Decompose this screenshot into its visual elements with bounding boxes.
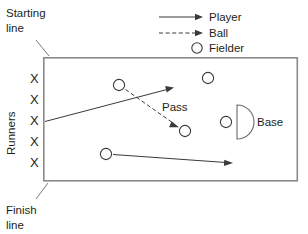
base-semicircle-icon [237,105,254,139]
fielder-lower-left [100,148,111,159]
base-marker: Base [220,105,283,139]
fielder-upper-left [113,79,124,90]
fielder-at-base [220,116,231,127]
starting-line-label-line1: Starting [6,7,46,19]
dashed-arrow-icon [159,30,203,37]
runners-label: Runners [5,111,17,155]
lower-player-arrow [113,155,233,167]
runner-mark-1: X [30,71,39,86]
legend-item-player: Player [159,11,242,23]
fielder-upper-right [202,72,213,83]
legend-label-player: Player [209,11,242,23]
legend-label-fielder: Fielder [209,42,244,54]
circle-icon [192,43,202,53]
runner-mark-5: X [30,155,39,170]
base-label: Base [257,116,283,128]
starting-line-leader-line [36,40,49,56]
fielder-ball-receiver [179,125,190,136]
legend-item-fielder: Fielder [192,42,245,54]
runner-path-arrow [45,86,174,121]
runner-mark-4: X [30,134,39,149]
field-diagram: Player Ball Fielder Starting line [0,0,308,234]
finish-line-leader-line [36,183,48,199]
finish-line-label-line1: Finish [6,204,37,216]
finish-line-annotation: Finish line [6,183,48,231]
runner-mark-3: X [30,113,39,128]
starting-line-annotation: Starting line [6,7,49,56]
pass-label: Pass [162,101,188,113]
finish-line-label-line2: line [6,219,24,231]
solid-arrow-icon [159,14,203,21]
legend-item-ball: Ball [159,27,228,39]
runner-marks: X X X X X [30,71,39,170]
runner-mark-2: X [30,92,39,107]
diagram-canvas: Player Ball Fielder Starting line [0,0,308,234]
legend-label-ball: Ball [209,27,228,39]
legend: Player Ball Fielder [159,11,244,54]
starting-line-label-line2: line [6,22,24,34]
